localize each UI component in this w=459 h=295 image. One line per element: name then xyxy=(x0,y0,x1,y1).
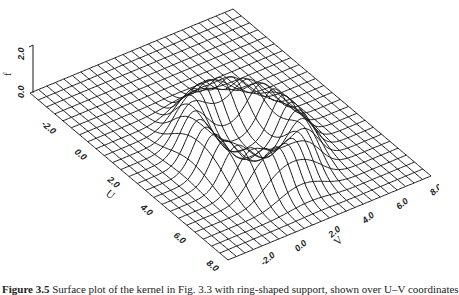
v-tick-label: 4.0 xyxy=(359,210,376,226)
mesh-line-v xyxy=(30,93,228,260)
u-tick-label: 4.0 xyxy=(138,202,155,218)
mesh-line-u xyxy=(228,176,431,260)
u-tick-label: 0.0 xyxy=(73,147,89,163)
v-axis-label: V xyxy=(331,233,345,247)
mesh-line-u xyxy=(203,155,406,239)
mesh-line-v xyxy=(208,20,406,187)
z-axis-label: f xyxy=(1,72,13,76)
v-tick-label: 6.0 xyxy=(394,196,410,212)
v-tick-label: 8.0 xyxy=(428,182,439,198)
caption-text: Surface plot of the kernel in Fig. 3.3 w… xyxy=(52,283,458,295)
mesh-line-v xyxy=(47,86,245,253)
mesh-line-u xyxy=(129,83,332,176)
u-axis-label: U xyxy=(104,187,118,201)
mesh-line-v xyxy=(182,30,380,197)
mesh-line-v xyxy=(39,90,237,257)
v-tick-label: 0.0 xyxy=(293,238,309,254)
v-tick-label: -2.0 xyxy=(259,250,277,268)
u-tick-label: -2.0 xyxy=(40,119,58,137)
mesh-line-u xyxy=(88,58,291,142)
mesh-line-v xyxy=(174,34,372,201)
z-axis: 2.0 0.0 f xyxy=(1,45,33,98)
mesh-line-v xyxy=(64,79,262,246)
mesh-line-v xyxy=(157,41,355,208)
u-axis-ticks: -2.00.02.04.06.08.0 xyxy=(40,119,221,274)
wireframe-mesh xyxy=(30,9,431,260)
caption-label: Figure 3.5 xyxy=(2,283,49,295)
u-tick-label: 8.0 xyxy=(205,258,221,274)
mesh-line-v xyxy=(55,83,253,250)
z-tick-label-0: 0.0 xyxy=(16,85,26,98)
z-axis-tick-top xyxy=(29,45,33,47)
figure-caption: Figure 3.5 Surface plot of the kernel in… xyxy=(2,283,439,295)
mesh-line-u xyxy=(113,77,316,163)
z-tick-label-2: 2.0 xyxy=(16,47,26,61)
u-tick-label: 6.0 xyxy=(172,230,188,246)
